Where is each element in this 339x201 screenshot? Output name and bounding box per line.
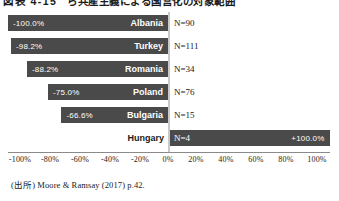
bar-row-bulgaria: -66.6% Bulgaria N=15 bbox=[0, 107, 339, 123]
bar-value-label-turkey: -98.2% bbox=[16, 42, 43, 51]
sample-size-romania: N=34 bbox=[174, 64, 195, 74]
bar-country-label-poland: Poland bbox=[133, 87, 163, 97]
bar-bulgaria[interactable]: -66.6% Bulgaria bbox=[61, 107, 168, 123]
bar-country-label-bulgaria: Bulgaria bbox=[127, 110, 163, 120]
bar-poland[interactable]: -75.0% Poland bbox=[48, 84, 168, 100]
bar-row-turkey: -98.2% Turkey N=111 bbox=[0, 38, 339, 54]
x-tick-label-6: 20% bbox=[188, 155, 203, 164]
sample-size-turkey: N=111 bbox=[174, 41, 198, 51]
bar-albania[interactable]: -100.0% Albania bbox=[8, 15, 168, 31]
x-tick-label-5: 0% bbox=[162, 155, 173, 164]
source-prefix: (出所) bbox=[11, 180, 35, 190]
source-note: (出所) Moore & Ramsay (2017) p.42. bbox=[11, 178, 145, 190]
x-tick-label-0: -100% bbox=[9, 155, 31, 164]
x-tick-label-9: 80% bbox=[278, 155, 293, 164]
bar-value-label-bulgaria: -66.6% bbox=[66, 111, 93, 120]
bar-country-label-hungary: Hungary bbox=[108, 133, 164, 143]
bar-country-label-turkey: Turkey bbox=[134, 41, 163, 51]
x-tick-label-2: -60% bbox=[71, 155, 89, 164]
bar-country-label-romania: Romania bbox=[125, 64, 163, 74]
chart-plot-area: -100.0% Albania N=90 -98.2% Turkey N=111… bbox=[0, 12, 339, 152]
x-tick-label-10: 100% bbox=[307, 155, 326, 164]
bar-hungary[interactable]: +100.0% bbox=[170, 130, 330, 146]
bar-value-label-albania: -100.0% bbox=[13, 19, 44, 28]
source-citation: Moore & Ramsay (2017) p.42. bbox=[37, 180, 145, 190]
x-tick-label-1: -80% bbox=[41, 155, 59, 164]
x-axis-line bbox=[8, 152, 330, 153]
bar-value-label-hungary: +100.0% bbox=[291, 134, 324, 143]
sample-size-albania: N=90 bbox=[174, 18, 195, 28]
x-tick-label-7: 40% bbox=[218, 155, 233, 164]
figure-title-number: 図表 4-15 bbox=[3, 0, 57, 7]
bar-row-poland: -75.0% Poland N=76 bbox=[0, 84, 339, 100]
bar-row-albania: -100.0% Albania N=90 bbox=[0, 15, 339, 31]
sample-size-poland: N=76 bbox=[174, 87, 195, 97]
sample-size-hungary: N=4 bbox=[174, 133, 190, 143]
x-tick-label-8: 60% bbox=[248, 155, 263, 164]
bar-value-label-romania: -88.2% bbox=[32, 65, 59, 74]
bar-turkey[interactable]: -98.2% Turkey bbox=[11, 38, 168, 54]
figure-container: 図表 4-15ら共産主義による国営化の対象範囲 -100.0% Albania … bbox=[0, 0, 339, 201]
sample-size-bulgaria: N=15 bbox=[174, 110, 195, 120]
bar-row-romania: -88.2% Romania N=34 bbox=[0, 61, 339, 77]
x-tick-label-4: -20% bbox=[131, 155, 149, 164]
x-axis: -100% -80% -60% -40% -20% 0% 20% 40% 60%… bbox=[0, 152, 339, 172]
bar-romania[interactable]: -88.2% Romania bbox=[27, 61, 168, 77]
bar-row-hungary: Hungary +100.0% N=4 bbox=[0, 130, 339, 146]
bar-country-label-albania: Albania bbox=[130, 18, 163, 28]
figure-title: 図表 4-15ら共産主義による国営化の対象範囲 bbox=[3, 0, 336, 7]
bar-value-label-poland: -75.0% bbox=[53, 88, 80, 97]
figure-title-text: ら共産主義による国営化の対象範囲 bbox=[67, 0, 235, 7]
x-tick-label-3: -40% bbox=[101, 155, 119, 164]
